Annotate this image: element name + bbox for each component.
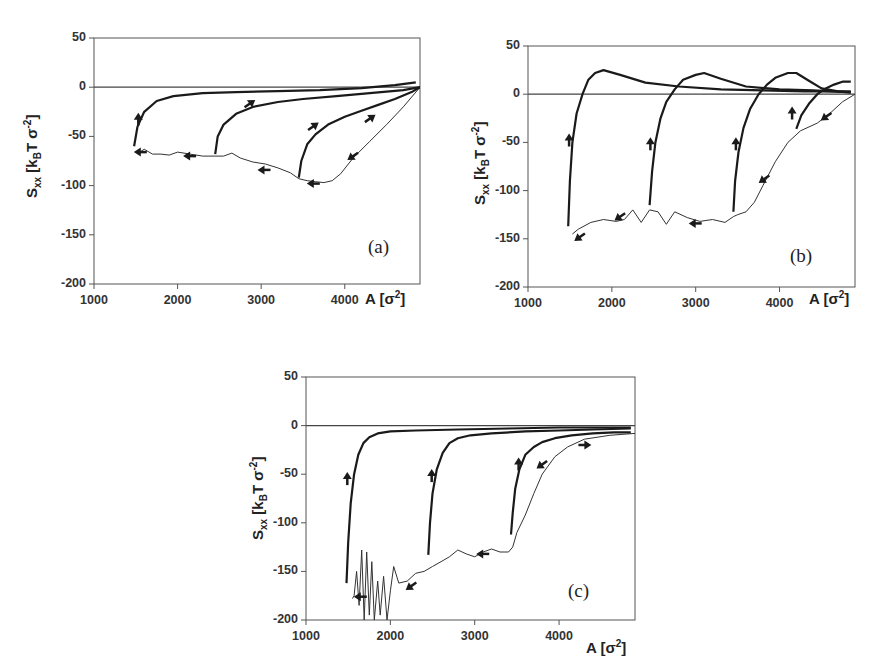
x-tick-label: 1000 <box>286 629 326 643</box>
x-tick-label: 4000 <box>539 629 579 643</box>
x-axis-label-c: A [σ2] <box>586 638 626 656</box>
expansion-curve <box>347 428 631 584</box>
direction-arrow-icon <box>514 458 523 471</box>
plot-area-c <box>0 0 884 672</box>
y-tick-label: -200 <box>258 612 298 626</box>
y-tick-label: 50 <box>258 369 298 383</box>
expansion-curve <box>428 429 631 555</box>
direction-arrow-icon <box>343 472 352 485</box>
direction-arrow-icon <box>534 457 550 472</box>
compression-curve <box>352 433 635 620</box>
expansion-curve <box>511 432 631 534</box>
y-tick-label: -100 <box>258 515 298 529</box>
y-tick-label: -50 <box>258 466 298 480</box>
chart-panel-c: Sxx [kBT σ-2] A [σ2] (c) 500-50-100-150-… <box>0 0 884 672</box>
x-tick-label: 3000 <box>455 629 495 643</box>
y-tick-label: 0 <box>258 418 298 432</box>
direction-arrow-icon <box>578 441 591 450</box>
panel-tag-c: (c) <box>568 580 589 602</box>
x-tick-label: 2000 <box>370 629 410 643</box>
y-tick-label: -150 <box>258 563 298 577</box>
